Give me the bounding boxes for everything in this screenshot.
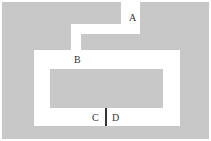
label-b: B bbox=[74, 55, 81, 65]
upper-passage bbox=[71, 24, 140, 34]
maze-diagram: A B C D bbox=[0, 0, 211, 141]
inner-island bbox=[50, 69, 163, 108]
label-d: D bbox=[112, 113, 119, 123]
label-c: C bbox=[92, 113, 99, 123]
label-a: A bbox=[129, 13, 136, 23]
divider-wall bbox=[105, 108, 107, 126]
connector-passage bbox=[71, 24, 81, 52]
